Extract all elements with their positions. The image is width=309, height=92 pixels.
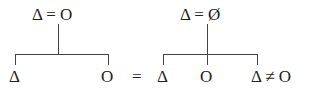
right-child-1: Δ: [157, 68, 168, 85]
right-stem: [207, 24, 208, 65]
left-child-2: O: [101, 68, 113, 85]
left-drop-2: [108, 54, 109, 65]
right-drop-3: [257, 54, 258, 65]
left-child-1: Δ: [9, 68, 20, 85]
left-stem: [58, 24, 59, 55]
right-drop-1: [163, 54, 164, 65]
right-bar: [163, 54, 258, 55]
right-child-3: Δ ≠ O: [251, 68, 291, 85]
left-bar: [15, 54, 109, 55]
right-root-label: Δ = Ø: [180, 6, 220, 23]
left-root-label: Δ = O: [32, 6, 72, 23]
left-drop-1: [15, 54, 16, 65]
equals-sign: =: [132, 68, 142, 85]
right-child-2: O: [200, 68, 212, 85]
